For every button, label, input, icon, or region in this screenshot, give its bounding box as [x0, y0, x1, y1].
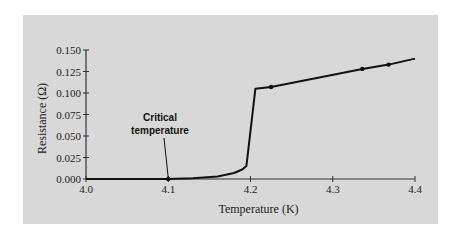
y-tick-label: 0.125 — [56, 66, 81, 78]
x-tick-label: 4.3 — [326, 183, 340, 195]
y-tick-label: 0.150 — [56, 44, 81, 56]
data-line — [86, 59, 415, 179]
data-point-marker — [386, 62, 390, 66]
annotation-text: temperature — [131, 125, 189, 136]
data-point-marker — [269, 85, 273, 89]
x-tick-label: 4.4 — [408, 183, 422, 195]
y-tick-label: 0.100 — [56, 87, 81, 99]
x-tick-label: 4.2 — [244, 183, 258, 195]
y-axis-title: Resistance (Ω) — [35, 83, 49, 154]
x-tick-label: 4.0 — [79, 183, 93, 195]
y-tick-label: 0.025 — [56, 152, 81, 164]
annotation-text: Critical — [143, 112, 177, 123]
resistance-temperature-chart: 0.0000.0250.0500.0750.1000.1250.1504.04.… — [0, 0, 460, 236]
data-point-marker — [360, 67, 364, 71]
x-axis-title: Temperature (K) — [218, 202, 298, 216]
y-tick-label: 0.075 — [56, 109, 81, 121]
plot-area — [86, 59, 415, 182]
annotation-leader-line — [164, 138, 168, 178]
y-tick-label: 0.050 — [56, 130, 81, 142]
axes — [83, 50, 415, 182]
x-tick-label: 4.1 — [161, 183, 175, 195]
y-tick-label: 0.000 — [56, 173, 81, 185]
